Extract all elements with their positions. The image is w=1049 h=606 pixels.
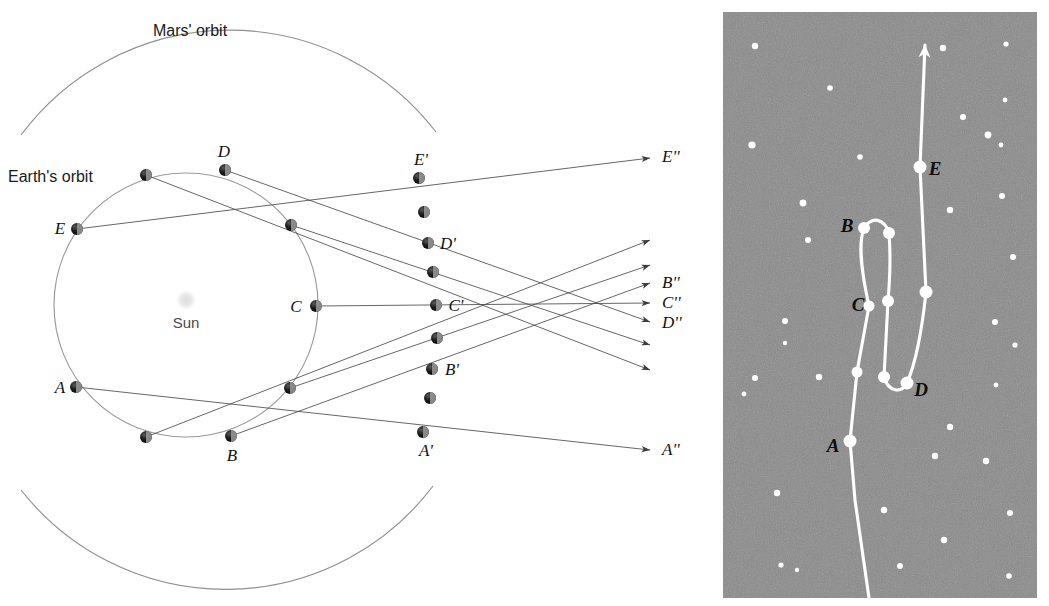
planet-dot-lit-limb xyxy=(428,237,434,249)
sky-track-label-D: D xyxy=(913,379,928,400)
sightline-A xyxy=(76,387,650,450)
earth-position-B-label: B xyxy=(227,446,238,465)
track-node xyxy=(878,371,890,383)
planet-dot-lit-limb xyxy=(437,332,443,344)
mars-position-C-prime-label: C' xyxy=(449,296,464,315)
mars-position-A-prime: A' xyxy=(417,426,433,460)
planet-dot-lit-limb xyxy=(231,430,237,442)
star xyxy=(1006,573,1012,579)
earth-position-p7 xyxy=(140,169,152,181)
earth-position-E: E xyxy=(54,219,83,238)
earth-position-C-label: C xyxy=(290,297,302,316)
track-node-D xyxy=(901,377,914,390)
retrograde-motion-figure: Sun ABCDE A'B'C'D'E' Mars' orbit Earth's… xyxy=(0,0,1049,606)
star xyxy=(1007,510,1013,516)
planet-dot-lit-limb xyxy=(419,172,425,184)
star xyxy=(932,453,938,459)
sky-track-label-C: C xyxy=(852,294,865,315)
planet-dot-lit-limb xyxy=(225,164,231,176)
mars-position-p5 xyxy=(427,266,439,278)
planet-dot-lit-limb xyxy=(432,363,438,375)
mars-position-p1 xyxy=(424,392,436,404)
mars-orbit-arc xyxy=(21,30,436,135)
sun-icon xyxy=(176,290,196,310)
star xyxy=(1012,342,1017,347)
star xyxy=(1010,254,1016,260)
earth-position-p5 xyxy=(285,219,297,231)
sky-projection-labels: E''B''C''D''A'' xyxy=(661,147,682,459)
planet-dot-lit-limb xyxy=(430,392,436,404)
star xyxy=(881,507,887,513)
star xyxy=(994,383,999,388)
mars-orbit-label: Mars' orbit xyxy=(153,22,228,39)
star xyxy=(992,319,998,325)
star xyxy=(983,458,989,464)
earth-position-B: B xyxy=(225,430,238,465)
star xyxy=(947,207,953,213)
sky-background xyxy=(723,12,1037,598)
star xyxy=(1003,98,1008,103)
track-node-E xyxy=(914,161,927,174)
sightline-E xyxy=(77,158,650,229)
sky-track-label-E: E xyxy=(928,158,942,179)
earth-position-p1 xyxy=(140,431,152,443)
star xyxy=(816,374,822,380)
projection-label-Eprimeprime: E'' xyxy=(661,147,680,166)
mars-position-p7 xyxy=(418,206,430,218)
star xyxy=(947,424,953,430)
star xyxy=(960,114,966,120)
mars-orbit-arc-lower xyxy=(21,486,433,589)
star xyxy=(940,45,946,51)
track-node-C xyxy=(864,301,875,312)
star xyxy=(941,537,947,543)
star xyxy=(1003,41,1008,46)
earth-position-A-label: A xyxy=(54,378,66,397)
projection-label-Bprimeprime: B'' xyxy=(662,273,680,292)
earth-orbit-label: Earth's orbit xyxy=(8,168,93,185)
planet-dot-lit-limb xyxy=(77,223,83,235)
mars-position-D-prime-label: D' xyxy=(439,234,456,253)
star xyxy=(778,562,783,567)
track-node xyxy=(883,227,895,239)
sky-view-starfield: EBCDA xyxy=(723,12,1037,598)
earth-position-D-label: D xyxy=(217,142,231,161)
track-node-A xyxy=(844,435,857,448)
star xyxy=(999,143,1004,148)
planet-dot-lit-limb xyxy=(146,169,152,181)
star xyxy=(782,318,788,324)
projection-label-Cprimeprime: C'' xyxy=(662,293,681,312)
mars-position-C-prime: C' xyxy=(430,296,464,315)
star xyxy=(897,563,903,569)
mars-position-A-prime-label: A' xyxy=(418,441,433,460)
mars-position-E-prime-label: E' xyxy=(413,150,428,169)
sky-track-label-A: A xyxy=(826,435,840,456)
star xyxy=(827,85,833,91)
planet-dot-lit-limb xyxy=(423,426,429,438)
figure-svg: Sun ABCDE A'B'C'D'E' Mars' orbit Earth's… xyxy=(0,0,1049,606)
mars-position-B-prime-label: B' xyxy=(445,360,459,379)
sight-lines-group xyxy=(76,158,650,450)
track-node xyxy=(882,295,894,307)
star xyxy=(748,141,755,148)
sun-marker: Sun xyxy=(173,290,200,331)
star xyxy=(783,341,787,345)
track-node-B xyxy=(858,222,870,234)
earth-position-p3 xyxy=(284,382,296,394)
star xyxy=(985,132,992,139)
star xyxy=(800,200,807,207)
planet-dot-lit-limb xyxy=(291,219,297,231)
sightline-6 xyxy=(291,225,650,345)
earth-position-D: D xyxy=(217,142,231,176)
star xyxy=(999,193,1005,199)
star xyxy=(795,568,799,572)
star xyxy=(805,237,811,243)
planet-dot-lit-limb xyxy=(290,382,296,394)
star xyxy=(774,490,780,496)
star xyxy=(857,154,863,160)
mars-position-E-prime: E' xyxy=(413,150,428,184)
heliocentric-orbit-diagram: Sun ABCDE A'B'C'D'E' Mars' orbit Earth's… xyxy=(8,22,682,589)
mars-position-D-prime: D' xyxy=(422,234,456,253)
sightline-4 xyxy=(290,265,650,388)
planet-dot-lit-limb xyxy=(433,266,439,278)
sightline-2 xyxy=(146,240,650,437)
